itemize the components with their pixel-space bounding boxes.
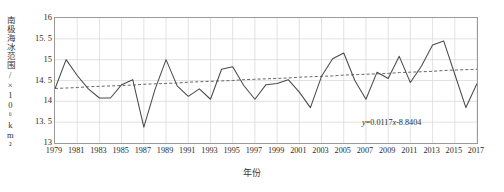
x-tick-label: 2011: [401, 146, 417, 155]
equation-body: =0.0117: [366, 118, 393, 127]
x-tick-label: 2001: [290, 146, 306, 155]
x-tick-label: 1997: [246, 146, 262, 155]
x-tick-label: 1993: [201, 146, 217, 155]
equation-tail: -8.8404: [396, 118, 421, 127]
x-tick-label: 2009: [379, 146, 395, 155]
x-tick-label: 1979: [46, 146, 62, 155]
y-axis-title-text: 南极海冰范围/×10⁶km²: [5, 16, 15, 150]
x-tick-label: 1983: [90, 146, 106, 155]
chart-figure: 南极海冰范围/×10⁶km² 1313. 51414. 51515. 516 y…: [0, 0, 504, 192]
x-tick-label: 2017: [468, 146, 484, 155]
y-axis-ticks: 1313. 51414. 51515. 516: [14, 0, 52, 192]
y-tick-label: 15: [18, 54, 52, 64]
x-tick-label: 1991: [179, 146, 195, 155]
x-tick-label: 1989: [157, 146, 173, 155]
x-tick-label: 1981: [68, 146, 84, 155]
y-tick-label: 15. 5: [18, 33, 52, 43]
y-tick-label: 14. 5: [18, 75, 52, 85]
y-tick-label: 14: [18, 95, 52, 105]
x-tick-label: 2003: [312, 146, 328, 155]
x-tick-label: 1987: [135, 146, 151, 155]
x-tick-label: 2005: [335, 146, 351, 155]
x-tick-label: 1985: [112, 146, 128, 155]
series-layer: [55, 41, 477, 127]
trend-line: [55, 69, 477, 88]
y-tick-label: 13. 5: [18, 116, 52, 126]
x-axis-title: 年份: [0, 166, 504, 179]
data-line: [55, 41, 477, 127]
x-axis-title-text: 年份: [243, 168, 261, 178]
x-tick-label: 1999: [268, 146, 284, 155]
y-tick-label: 16: [18, 12, 52, 22]
x-tick-label: 2015: [446, 146, 462, 155]
x-tick-label: 2013: [423, 146, 439, 155]
x-axis-ticks: 1979198119831985198719891991199319951997…: [0, 146, 504, 162]
x-tick-label: 2007: [357, 146, 373, 155]
x-tick-label: 1995: [223, 146, 239, 155]
trend-equation-label: y=0.0117x-8.8404: [362, 118, 421, 127]
